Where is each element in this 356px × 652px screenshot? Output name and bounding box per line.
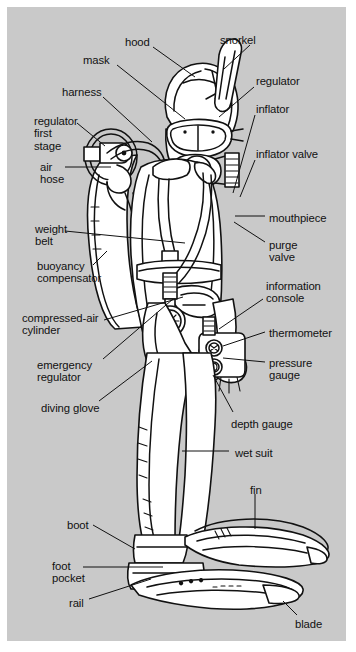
label-information-console: information console <box>266 280 321 305</box>
label-pressure-gauge: pressure gauge <box>269 357 312 382</box>
label-harness: harness <box>62 86 102 98</box>
label-mouthpiece: mouthpiece <box>269 212 326 224</box>
label-emergency-regulator: emergency regulator <box>37 359 92 384</box>
label-wet-suit: wet suit <box>235 447 273 459</box>
label-purge-valve: purge valve <box>269 239 297 264</box>
diagram-panel: .o { fill:#ffffff; stroke:#111111; strok… <box>7 7 346 641</box>
label-inflator: inflator <box>256 103 289 115</box>
label-boot: boot <box>67 519 89 531</box>
label-depth-gauge: depth gauge <box>231 418 293 430</box>
label-inflator-valve: inflator valve <box>256 148 318 160</box>
label-thermometer: thermometer <box>269 327 332 339</box>
label-mask: mask <box>83 54 110 66</box>
label-diving-glove: diving glove <box>41 402 99 414</box>
label-blade: blade <box>295 618 322 630</box>
label-air-hose: air hose <box>40 161 64 186</box>
figure-root: .o { fill:#ffffff; stroke:#111111; strok… <box>0 0 356 652</box>
label-weight-belt: weight belt <box>35 223 67 248</box>
label-regulator-first-stage: regulator first stage <box>34 115 78 152</box>
label-snorkel: snorkel <box>220 34 256 46</box>
label-foot-pocket: foot pocket <box>52 560 85 585</box>
label-buoyancy-compensator: buoyancy compensator <box>37 260 101 285</box>
label-rail: rail <box>69 597 84 609</box>
label-hood: hood <box>125 36 150 48</box>
label-fin: fin <box>250 484 262 496</box>
label-layer: hood snorkel mask regulator harness infl… <box>7 7 346 641</box>
label-regulator: regulator <box>256 75 300 87</box>
label-compressed-air-cylinder: compressed-air cylinder <box>22 312 98 337</box>
